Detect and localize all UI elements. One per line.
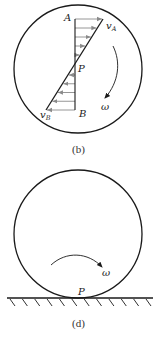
ground-hatching	[10, 299, 151, 306]
figure-d: ω P (d)	[7, 170, 153, 330]
omega-label: ω	[101, 101, 109, 112]
velocity-a-subscript: A	[111, 25, 117, 33]
ground-hatch-mark	[109, 299, 114, 306]
ground-hatch-mark	[22, 299, 27, 306]
velocity-b-subscript: B	[45, 114, 51, 122]
ground-hatch-mark	[134, 299, 139, 306]
ground-hatch-mark	[84, 299, 89, 306]
point-a-label: A	[63, 12, 71, 23]
point-b-label: B	[78, 108, 86, 119]
figure-b-caption: (b)	[72, 143, 85, 156]
figure-d-caption: (d)	[72, 317, 85, 330]
ground-hatch-mark	[72, 299, 77, 306]
velocity-a-label: vA	[106, 20, 117, 33]
ground-hatch-mark	[10, 299, 15, 306]
omega-label: ω	[102, 267, 110, 278]
ground-hatch-mark	[121, 299, 126, 306]
contact-point-p-label: P	[77, 286, 85, 297]
ground-hatch-mark	[146, 299, 151, 306]
angular-velocity-arrow-icon	[105, 46, 118, 98]
velocity-b-label: vB	[40, 109, 51, 122]
rotation-diagrams: A P B vA vB ω (b) ω P (d)	[0, 0, 164, 347]
ground-hatch-mark	[47, 299, 52, 306]
ground-hatch-mark	[59, 299, 64, 306]
ground-hatch-mark	[97, 299, 102, 306]
wheel-outline	[14, 170, 142, 298]
point-p-label: P	[77, 63, 85, 74]
angular-velocity-arrow-icon	[51, 255, 102, 267]
figure-b: A P B vA vB ω (b)	[14, 5, 142, 156]
ground-hatch-mark	[35, 299, 40, 306]
